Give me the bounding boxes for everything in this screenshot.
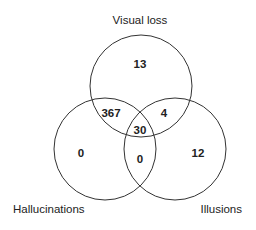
value-hallucinations-only: 0 — [78, 147, 84, 159]
circle-visual-loss — [90, 35, 192, 137]
label-illusions: Illusions — [200, 203, 242, 215]
circle-illusions — [124, 98, 226, 200]
label-hallucinations: Hallucinations — [13, 203, 85, 215]
value-hallucinations-illusions: 0 — [137, 153, 143, 165]
label-visual-loss: Visual loss — [113, 14, 168, 26]
value-illusions-only: 12 — [192, 147, 205, 159]
value-visual-loss-only: 13 — [134, 58, 147, 70]
venn-diagram: Visual loss Hallucinations Illusions 13 … — [0, 0, 256, 230]
value-visual-hallucinations: 367 — [101, 107, 120, 119]
value-visual-illusions: 4 — [161, 107, 168, 119]
value-all-three: 30 — [134, 124, 147, 136]
